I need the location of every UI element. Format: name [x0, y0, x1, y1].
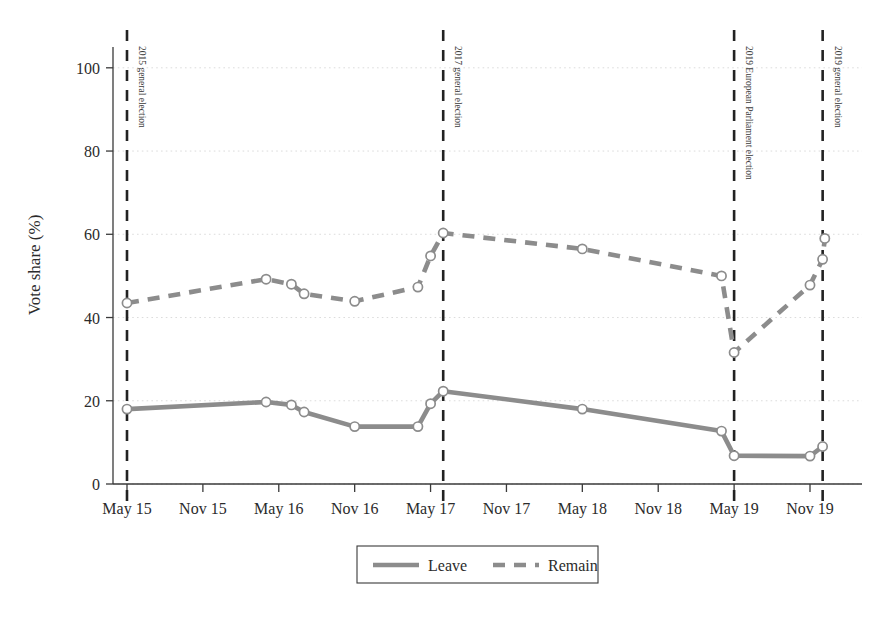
data-point-marker — [818, 255, 827, 264]
data-point-marker — [262, 275, 271, 284]
chart-canvas: 020406080100 May 15Nov 15May 16Nov 16May… — [0, 0, 880, 617]
x-tick-label: May 15 — [102, 500, 151, 518]
y-tick-label: 0 — [92, 476, 100, 493]
data-point-marker — [287, 400, 296, 409]
x-tick-label: May 16 — [254, 500, 303, 518]
data-point-marker — [350, 297, 359, 306]
x-tick-label: Nov 18 — [634, 500, 682, 517]
data-point-marker — [805, 281, 814, 290]
data-point-marker — [439, 387, 448, 396]
y-tick-label: 60 — [84, 226, 100, 243]
data-point-marker — [426, 251, 435, 260]
data-point-marker — [300, 407, 309, 416]
y-tick-label: 20 — [84, 393, 100, 410]
data-point-marker — [439, 228, 448, 237]
data-point-marker — [413, 422, 422, 431]
data-point-marker — [578, 244, 587, 253]
legend-label-remain: Remain — [548, 557, 598, 574]
data-point-marker — [730, 451, 739, 460]
data-point-marker — [578, 405, 587, 414]
x-tick-label: May 18 — [558, 500, 607, 518]
event-label: 2019 European Parliament election — [744, 46, 754, 180]
y-axis-title: Vote share (%) — [25, 215, 44, 316]
chart-legend: Leave Remain — [357, 546, 598, 583]
x-tick-label: Nov 19 — [786, 500, 834, 517]
event-label: 2019 general election — [833, 46, 843, 128]
x-tick-label: Nov 15 — [179, 500, 227, 517]
y-tick-label: 80 — [84, 143, 100, 160]
y-tick-label: 40 — [84, 310, 100, 327]
data-point-marker — [730, 348, 739, 357]
y-tick-label: 100 — [76, 60, 100, 77]
data-point-marker — [122, 405, 131, 414]
data-point-marker — [262, 397, 271, 406]
data-point-marker — [122, 298, 131, 307]
data-point-marker — [426, 399, 435, 408]
data-point-marker — [287, 280, 296, 289]
x-tick-label: Nov 17 — [483, 500, 531, 517]
x-tick-label: Nov 16 — [331, 500, 379, 517]
event-label: 2017 general election — [453, 46, 463, 128]
data-point-marker — [818, 442, 827, 451]
data-point-marker — [717, 271, 726, 280]
data-point-marker — [300, 289, 309, 298]
data-point-marker — [413, 283, 422, 292]
x-tick-label: May 19 — [709, 500, 758, 518]
data-point-marker — [820, 234, 829, 243]
data-point-marker — [350, 422, 359, 431]
data-point-marker — [805, 452, 814, 461]
legend-label-leave: Leave — [428, 557, 467, 574]
data-point-marker — [717, 427, 726, 436]
x-tick-label: May 17 — [406, 500, 455, 518]
vote-share-chart-figure: 020406080100 May 15Nov 15May 16Nov 16May… — [0, 0, 880, 617]
event-label: 2015 general election — [137, 46, 147, 128]
